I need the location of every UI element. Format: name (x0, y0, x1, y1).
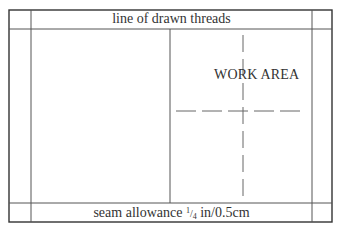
seam-allowance-suffix: in/0.5cm (197, 205, 250, 220)
drawn-threads-label: line of drawn threads (31, 12, 312, 26)
seam-allowance-label: seam allowance 1/4 in/0.5cm (31, 206, 312, 220)
embroidery-layout-diagram (0, 0, 341, 230)
work-area-label: WORK AREA (214, 68, 299, 82)
fraction-denominator: 4 (193, 212, 197, 221)
seam-allowance-prefix: seam allowance (93, 205, 186, 220)
